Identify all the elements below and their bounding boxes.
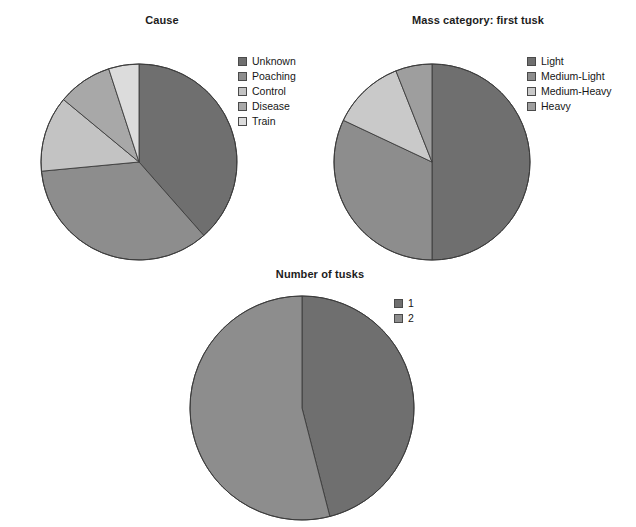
chart-panel-number-of-tusks: Number of tusks 12: [160, 268, 480, 524]
legend-swatch-icon: [527, 57, 536, 66]
legend-item[interactable]: Control: [238, 84, 296, 98]
legend-item-label: Poaching: [252, 71, 296, 82]
legend-item[interactable]: Heavy: [527, 99, 612, 113]
pie-slice[interactable]: [432, 64, 530, 260]
legend-item[interactable]: 1: [394, 296, 414, 310]
legend-item-label: Disease: [252, 101, 290, 112]
legend-item-label: Medium-Heavy: [541, 86, 612, 97]
legend-item[interactable]: Disease: [238, 99, 296, 113]
legend-item[interactable]: 2: [394, 311, 414, 325]
legend-swatch-icon: [238, 57, 247, 66]
legend-mass-category: LightMedium-LightMedium-HeavyHeavy: [527, 54, 612, 113]
page-title-cause: Cause: [6, 14, 318, 26]
legend-item-label: Heavy: [541, 101, 571, 112]
legend-item-label: 1: [408, 298, 414, 309]
legend-cause: UnknownPoachingControlDiseaseTrain: [238, 54, 296, 128]
legend-swatch-icon: [394, 314, 403, 323]
legend-swatch-icon: [238, 117, 247, 126]
pie-chart-mass-category: [332, 62, 532, 262]
legend-item-label: Unknown: [252, 56, 296, 67]
legend-item[interactable]: Train: [238, 114, 296, 128]
legend-item[interactable]: Unknown: [238, 54, 296, 68]
legend-swatch-icon: [527, 87, 536, 96]
legend-item[interactable]: Light: [527, 54, 612, 68]
legend-swatch-icon: [394, 299, 403, 308]
page-title-mass-category: Mass category: first tusk: [322, 14, 634, 26]
chart-panel-cause: Cause UnknownPoachingControlDiseaseTrain: [6, 14, 318, 264]
legend-item-label: 2: [408, 313, 414, 324]
legend-item[interactable]: Poaching: [238, 69, 296, 83]
legend-number-of-tusks: 12: [394, 296, 414, 325]
legend-swatch-icon: [527, 72, 536, 81]
legend-item-label: Train: [252, 116, 276, 127]
legend-swatch-icon: [238, 102, 247, 111]
legend-item[interactable]: Medium-Light: [527, 69, 612, 83]
legend-swatch-icon: [238, 87, 247, 96]
legend-item-label: Medium-Light: [541, 71, 605, 82]
pie-chart-cause: [39, 62, 239, 262]
legend-item-label: Light: [541, 56, 564, 67]
legend-swatch-icon: [238, 72, 247, 81]
legend-swatch-icon: [527, 102, 536, 111]
pie-chart-number-of-tusks: [188, 294, 416, 522]
chart-panel-mass-category: Mass category: first tusk LightMedium-Li…: [322, 14, 634, 264]
legend-item-label: Control: [252, 86, 286, 97]
page-title-number-of-tusks: Number of tusks: [160, 268, 480, 280]
legend-item[interactable]: Medium-Heavy: [527, 84, 612, 98]
